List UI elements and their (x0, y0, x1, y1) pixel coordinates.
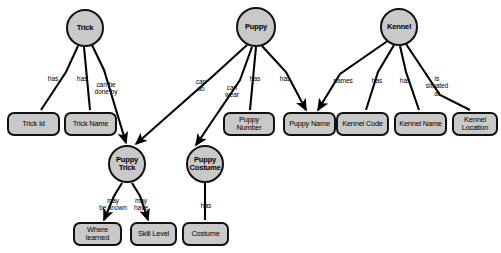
attribute-node-skill-level[interactable]: Skill Level (130, 222, 177, 246)
edge-label-puppy-has-number: has (250, 75, 260, 82)
entity-node-puppy-trick[interactable]: Puppy Trick (108, 145, 146, 183)
attribute-label: Kennel Name (397, 120, 444, 128)
attribute-node-puppy-number[interactable]: Puppy Number (223, 112, 275, 136)
entity-node-puppy-costume[interactable]: Puppy Costume (186, 145, 224, 183)
attribute-node-kennel-code[interactable]: Kennel Code (336, 112, 389, 136)
entity-label: Puppy Trick (116, 156, 138, 172)
relationship-edge (41, 46, 78, 110)
edge-label-puppy-has-name: has (280, 75, 290, 82)
edge-label-puppycostume-has-costume: has (201, 202, 211, 209)
attribute-label: Puppy Number (234, 116, 263, 132)
edge-label-puppy-cando: can do (196, 78, 206, 93)
edge-label-puppy-canwear: can wear (225, 84, 239, 99)
edge-label-puppytrick-maybeknown: may be known (99, 197, 126, 212)
edge-label-puppytrick-mayhave: may have (134, 197, 148, 212)
attribute-node-trick-name[interactable]: Trick Name (64, 112, 117, 136)
entity-label: Kennel (387, 23, 411, 31)
attribute-node-costume[interactable]: Costume (182, 222, 229, 246)
entity-label: Puppy (245, 23, 267, 31)
attribute-label: Costume (189, 230, 221, 238)
edge-label-kennel-has-code: has (372, 77, 382, 84)
edge-label-kennel-issituatedat: is situated at (426, 75, 448, 97)
attribute-node-trick-id[interactable]: Trick Id (7, 112, 60, 136)
entity-node-trick[interactable]: Trick (66, 9, 104, 47)
attribute-node-kennel-location[interactable]: Kennel Location (452, 112, 498, 136)
attribute-label: Kennel Location (460, 116, 490, 132)
attribute-node-where-learned[interactable]: Where learned (73, 222, 122, 246)
edge-label-trick-has-trickid: has (48, 75, 58, 82)
attribute-label: Trick Id (20, 120, 46, 128)
attribute-label: Trick Name (71, 120, 111, 128)
attribute-label: Skill Level (136, 230, 171, 238)
attribute-label: Kennel Code (340, 120, 385, 128)
entity-node-puppy[interactable]: Puppy (236, 7, 276, 47)
edge-label-trick-canbedoneby: can be done by (95, 81, 118, 96)
edge-label-kennel-names-puppyname: names (333, 77, 352, 84)
attribute-label: Where learned (84, 226, 111, 242)
entity-label: Puppy Costume (189, 156, 220, 172)
er-diagram-canvas: TrickPuppyKennelPuppy TrickPuppy Costume… (0, 0, 501, 253)
attribute-node-puppy-name[interactable]: Puppy Name (283, 112, 336, 136)
relationship-edge (318, 40, 389, 110)
edge-label-trick-has-trickname: has (77, 75, 87, 82)
entity-label: Trick (77, 24, 94, 32)
entity-node-kennel[interactable]: Kennel (380, 8, 418, 46)
attribute-label: Puppy Name (287, 120, 332, 128)
attribute-node-kennel-name[interactable]: Kennel Name (394, 112, 447, 136)
edge-label-kennel-has-name: has (400, 77, 410, 84)
